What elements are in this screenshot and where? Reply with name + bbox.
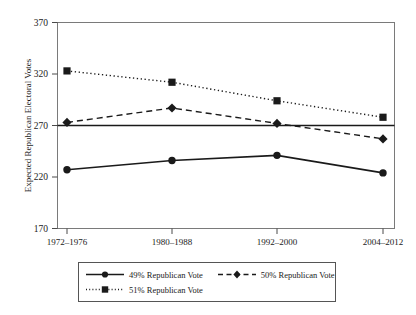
- series-layer: [62, 67, 387, 176]
- legend-row-2: 51% Republican Vote: [85, 282, 329, 297]
- plot-area: 370 320 270 220 170 Expected Republican …: [0, 0, 416, 260]
- y-axis-ticks: [52, 23, 58, 229]
- legend-row-1: 49% Republican Vote 50% Republican Vote: [85, 267, 329, 282]
- data-point: [273, 97, 280, 104]
- legend-label-49: 49% Republican Vote: [129, 270, 203, 280]
- y-axis-title: Expected Republican Electoral Votes: [23, 58, 33, 192]
- x-category-label-4: 2004–2012: [363, 237, 404, 247]
- series-line: [67, 71, 383, 117]
- x-axis-ticks: [67, 229, 383, 235]
- data-point: [272, 119, 281, 128]
- legend-swatch-dashed-diamond: [217, 269, 257, 280]
- y-tick-label-370: 370: [34, 18, 49, 28]
- series-51-republican-vote: [63, 67, 386, 121]
- legend-swatch-dotted-square: [85, 284, 125, 295]
- legend-label-50: 50% Republican Vote: [261, 270, 335, 280]
- data-point: [63, 166, 70, 173]
- chart-figure: 370 320 270 220 170 Expected Republican …: [0, 0, 416, 315]
- data-point: [379, 114, 386, 121]
- y-tick-label-270: 270: [34, 121, 49, 131]
- series-line: [67, 155, 383, 173]
- legend-entry-51: 51% Republican Vote: [85, 284, 203, 295]
- data-point: [167, 103, 176, 112]
- chart-legend: 49% Republican Vote 50% Republican Vote …: [78, 262, 336, 302]
- x-category-label-2: 1980–1988: [152, 237, 193, 247]
- data-point: [378, 134, 387, 143]
- data-point: [63, 67, 70, 74]
- x-category-label-1: 1972–1976: [47, 237, 88, 247]
- data-point: [168, 157, 175, 164]
- y-tick-label-170: 170: [34, 224, 49, 234]
- x-category-label-3: 1992–2000: [257, 237, 298, 247]
- legend-entry-49: 49% Republican Vote: [85, 269, 203, 280]
- legend-swatch-solid-circle: [85, 269, 125, 280]
- data-point: [379, 169, 386, 176]
- y-tick-label-320: 320: [34, 69, 49, 79]
- data-point: [273, 152, 280, 159]
- series-50-republican-vote: [62, 103, 387, 143]
- y-tick-label-220: 220: [34, 172, 49, 182]
- legend-entry-50: 50% Republican Vote: [217, 269, 335, 280]
- series-line: [67, 108, 383, 139]
- series-49-republican-vote: [63, 152, 386, 177]
- line-chart-svg: 370 320 270 220 170 Expected Republican …: [0, 0, 416, 260]
- legend-label-51: 51% Republican Vote: [129, 285, 203, 295]
- data-point: [168, 79, 175, 86]
